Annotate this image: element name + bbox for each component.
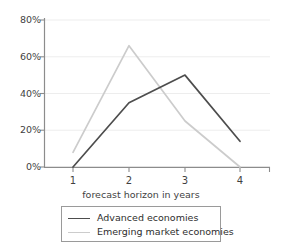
legend-label-emerging-market-economies: Emerging market economies: [97, 226, 234, 238]
legend-label-advanced-economies: Advanced economies: [97, 212, 198, 224]
x-axis-title: forecast horizon in years: [0, 189, 282, 200]
series-line-emerging-market-economies: [73, 46, 240, 167]
y-axis-tick-labels: 80% 60% 40% 20% 0%: [0, 0, 41, 248]
legend: Advanced economies Emerging market econo…: [61, 206, 221, 242]
y-tick-label-60: 60%: [5, 52, 41, 62]
y-tick-label-80: 80%: [5, 15, 41, 25]
x-tick-label-1: 1: [63, 175, 83, 186]
x-tick-label-2: 2: [119, 175, 139, 186]
legend-swatch-emerging-market-economies: [68, 232, 90, 233]
chart-figure: 80% 60% 40% 20% 0% 1 2 3 4 forecast hori…: [0, 0, 282, 248]
legend-swatch-advanced-economies: [68, 218, 90, 219]
y-tick-label-20: 20%: [5, 125, 41, 135]
x-tick-label-4: 4: [230, 175, 250, 186]
legend-item-emerging-market-economies: Emerging market economies: [68, 225, 212, 239]
gridlines: [44, 20, 270, 130]
series-line-advanced-economies: [73, 75, 240, 167]
legend-item-advanced-economies: Advanced economies: [68, 211, 212, 225]
y-tick-label-40: 40%: [5, 89, 41, 99]
x-tick-label-3: 3: [175, 175, 195, 186]
y-tick-label-0: 0%: [5, 162, 41, 172]
